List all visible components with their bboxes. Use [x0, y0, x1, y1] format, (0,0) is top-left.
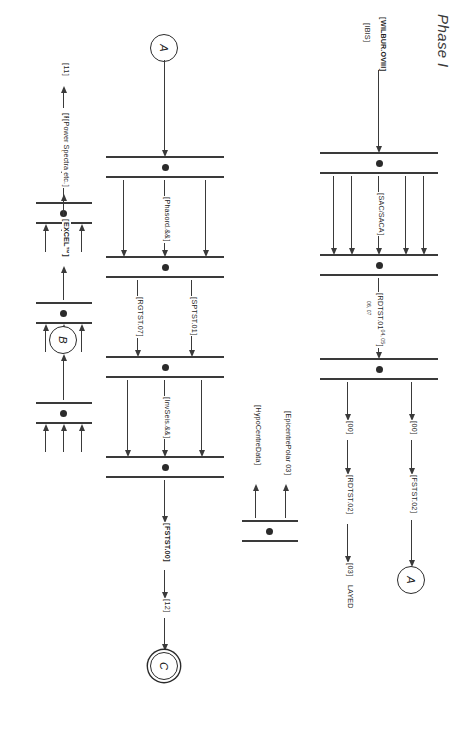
arc-zero-b-next: [411, 440, 412, 470]
transition-bar-t1a: [320, 152, 438, 154]
place-dot-p2: [376, 262, 383, 269]
label-eleven: 11: [62, 62, 71, 77]
transition-bar-t2b: [320, 274, 438, 276]
place-dot-p11: [60, 410, 67, 417]
arc-wilbur-to-t1: [378, 70, 379, 148]
connector-c-end[interactable]: C: [150, 652, 178, 680]
label-zero-b: 00: [410, 420, 419, 435]
label-hypocentre: HypoCentreData: [254, 404, 263, 466]
transition-bar-t5a: [106, 256, 224, 258]
arrowhead-power: [62, 194, 68, 201]
transition-bar-t6b: [106, 376, 224, 378]
arrowhead-11: [62, 86, 68, 93]
arc-t1-fan-2: [405, 176, 406, 250]
label-invseis: InvSeis.&&: [163, 396, 172, 439]
arrowhead-t10-1: [80, 324, 86, 331]
place-dot-p10: [60, 310, 67, 317]
transition-bar-t8a: [242, 520, 298, 522]
arc-zero-a-next: [347, 440, 348, 470]
arc-fstst-to-a: [411, 520, 412, 562]
arrowhead-t11-2: [62, 424, 68, 431]
page-title: Phase I: [435, 14, 452, 68]
transition-bar-t4a: [106, 156, 224, 158]
transition-bar-t1b: [320, 172, 438, 174]
transition-bar-t10a: [36, 302, 92, 304]
transition-bar-t4b: [106, 176, 224, 178]
label-rdtst01-text: RDTST.01: [376, 296, 385, 330]
place-dot-p1: [376, 160, 383, 167]
label-sac-saca: SAC/SACA: [377, 192, 386, 236]
label-fstst02: FSTST.02: [410, 474, 419, 514]
arc-phasord-3: [123, 180, 124, 252]
label-rdtst01-sup2: 06, 07: [366, 300, 372, 317]
transition-bar-t7a: [106, 456, 224, 458]
connector-b-left[interactable]: B: [49, 326, 77, 354]
transition-bar-t2a: [320, 254, 438, 256]
place-dot-p5: [162, 264, 169, 271]
arc-rdtst02-to-03: [347, 524, 348, 558]
arrowhead-c: [163, 644, 169, 651]
transition-bar-t9a: [36, 202, 92, 204]
arc-t3-fstst-1: [411, 382, 412, 416]
arc-to-b: [63, 356, 64, 400]
transition-bar-t7b: [106, 476, 224, 478]
arrowhead-hypocentre: [254, 484, 260, 491]
arc-phasord-1: [205, 180, 206, 252]
place-dot-p3: [376, 366, 383, 373]
transition-bar-t11a: [36, 402, 92, 404]
arrowhead-excel: [62, 266, 68, 273]
transition-bar-t5b: [106, 276, 224, 278]
transition-bar-t6a: [106, 356, 224, 358]
label-power-spectra: Power Spectra etc.: [62, 118, 71, 188]
label-phasord: Phasord.&&: [163, 196, 172, 243]
arc-invseis-1: [201, 380, 202, 452]
label-layed: LAYED: [346, 584, 355, 610]
label-excel: EXCEL™: [62, 218, 71, 258]
arc-t1-fan-1: [423, 176, 424, 250]
label-epicentre: EpicentrePolar 03: [284, 410, 293, 476]
label-zero-c: 03: [346, 562, 355, 577]
arc-fstst00: [164, 480, 165, 518]
label-rdtst01-sup1: 04, 05: [380, 330, 386, 345]
arrowhead-epicentre: [284, 484, 290, 491]
arc-a-to-t4: [164, 60, 165, 152]
label-fstst00: FSTST.00: [163, 522, 172, 563]
label-rdtst01: RDTST.0104, 05: [376, 292, 386, 348]
arc-fstst00-to-12: [164, 570, 165, 594]
label-zero-a: 00: [346, 420, 355, 435]
arrowhead-t10-3: [44, 324, 50, 331]
label-twelve: 12: [163, 598, 172, 613]
place-dot-p7: [162, 464, 169, 471]
arrowhead-t9-3: [44, 224, 50, 231]
transition-bar-t8b: [242, 540, 298, 542]
arrowhead-t11-1: [80, 424, 86, 431]
arc-invseis-3: [127, 380, 128, 452]
transition-bar-t3a: [320, 358, 438, 360]
place-dot-p8: [266, 528, 273, 535]
arrowhead-t11-3: [44, 424, 50, 431]
place-dot-p6: [162, 364, 169, 371]
label-sptst01: SPTST.01: [190, 296, 199, 336]
label-wilbur: WILBUR.OVIII: [379, 16, 388, 72]
arrowhead-t9-1: [80, 224, 86, 231]
arc-12-to-c: [164, 618, 165, 646]
connector-a-lower[interactable]: A: [397, 566, 425, 594]
transition-bar-t3b: [320, 378, 438, 380]
place-dot-p4: [162, 164, 169, 171]
arc-t1-fan-5: [333, 176, 334, 250]
arrowhead-b: [62, 354, 68, 361]
page-root: Phase I WILBUR.OVIII IBIS SAC/SACA RDTST…: [0, 0, 468, 756]
label-rgtst07: RGTST.07: [136, 296, 145, 338]
label-rdtst02: RDTST.02: [346, 474, 355, 515]
connector-a-top[interactable]: A: [150, 34, 178, 62]
arc-t1-fan-4: [351, 176, 352, 250]
label-ibis: IBIS: [363, 22, 372, 43]
diagram-canvas: Phase I WILBUR.OVIII IBIS SAC/SACA RDTST…: [0, 0, 468, 756]
arc-t3-rdtst-1: [347, 382, 348, 416]
